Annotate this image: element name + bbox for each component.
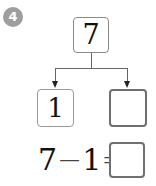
arrow-down-left-icon: [52, 81, 58, 88]
bond-left-branch-line: [55, 68, 56, 82]
equation-subtrahend: 1: [82, 143, 101, 177]
part-right-answer-box[interactable]: [109, 89, 147, 127]
problem-number-badge: 4: [3, 7, 23, 27]
equation-minuend: 7: [38, 143, 57, 177]
part-left-box: 1: [37, 89, 74, 127]
bond-horizontal-line: [55, 68, 128, 69]
arrow-down-right-icon: [124, 81, 130, 88]
bond-stem-line: [91, 53, 92, 68]
minus-sign: −: [57, 143, 82, 177]
bond-right-branch-line: [127, 68, 128, 82]
whole-number-box: 7: [73, 17, 109, 53]
equation-answer-box[interactable]: [109, 142, 145, 178]
